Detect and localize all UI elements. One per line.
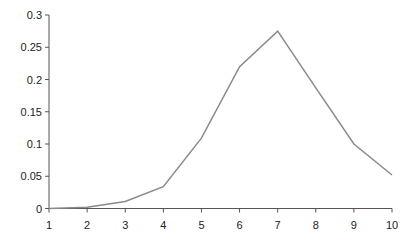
y-tick-label: 0.3 <box>27 9 42 21</box>
x-tick-label: 5 <box>198 219 204 231</box>
x-tick-label: 7 <box>275 219 281 231</box>
x-tick-label: 4 <box>160 219 166 231</box>
x-tick-label: 9 <box>351 219 357 231</box>
y-tick-label: 0.15 <box>21 106 42 118</box>
x-tick-label: 10 <box>386 219 398 231</box>
y-tick-label: 0.05 <box>21 170 42 182</box>
data-line <box>49 31 392 208</box>
x-tick-label: 8 <box>313 219 319 231</box>
y-axis: 00.050.10.150.20.250.3 <box>21 9 49 215</box>
x-tick-label: 6 <box>236 219 242 231</box>
y-tick-label: 0.2 <box>27 74 42 86</box>
y-tick-label: 0.1 <box>27 138 42 150</box>
x-tick-label: 2 <box>84 219 90 231</box>
y-tick-label: 0 <box>36 203 42 215</box>
line-chart: 00.050.10.150.20.250.3 12345678910 <box>0 0 417 242</box>
x-axis: 12345678910 <box>46 209 398 231</box>
x-tick-label: 1 <box>46 219 52 231</box>
y-tick-label: 0.25 <box>21 41 42 53</box>
x-tick-label: 3 <box>122 219 128 231</box>
